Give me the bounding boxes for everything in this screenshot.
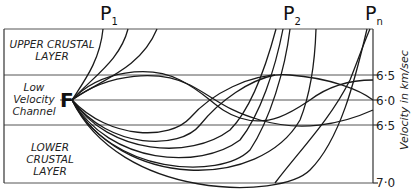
tick-6-5-lower: 6·5 bbox=[376, 120, 395, 132]
velocity-axis-title: Velocity in km/sec bbox=[398, 50, 411, 150]
station-p2: P2 bbox=[283, 3, 301, 32]
tick-7-0: 7·0 bbox=[376, 177, 395, 189]
upper-crustal-layer-label: UPPER CRUSTALLAYER bbox=[8, 38, 96, 62]
tick-6-0: 6·0 bbox=[376, 95, 395, 107]
lower-crustal-layer-label: LOWERCRUSTAL LAYER bbox=[10, 141, 90, 177]
low-velocity-channel-label: Low Velocity Channel bbox=[10, 81, 58, 117]
tick-6-5-upper: 6·5 bbox=[376, 70, 395, 82]
source-focus-label: F bbox=[60, 90, 74, 110]
ray-paths bbox=[72, 29, 373, 187]
station-pn: Pn bbox=[365, 3, 383, 32]
station-p1: P1 bbox=[100, 3, 118, 32]
